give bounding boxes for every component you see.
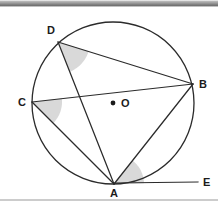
point-label-c: C [18, 97, 26, 108]
point-label-d: D [47, 25, 55, 36]
point-label-e: E [203, 177, 210, 188]
angle-BCA-shade [32, 99, 62, 124]
segment-CB [32, 84, 193, 102]
angle-BAE-shade [114, 160, 144, 184]
point-label-b: B [199, 79, 207, 90]
segment-CA [32, 102, 114, 184]
segment-DA [58, 42, 114, 184]
figure-canvas: A B C D E O [0, 0, 218, 209]
geometry-diagram [0, 0, 218, 209]
point-label-a: A [110, 188, 118, 199]
center-label-o: O [121, 98, 130, 109]
center-point-dot [111, 101, 116, 106]
